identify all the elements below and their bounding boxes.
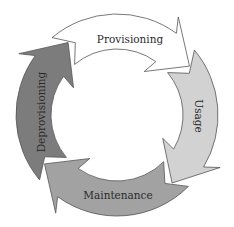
stage-label-usage: Usage bbox=[193, 99, 205, 132]
lifecycle-diagram: Provisioning Usage Maintenance Deprovisi… bbox=[0, 0, 234, 227]
stage-label-deprovisioning: Deprovisioning bbox=[35, 71, 47, 152]
stage-label-provisioning: Provisioning bbox=[97, 33, 164, 45]
arrow-usage bbox=[163, 50, 220, 183]
stage-label-maintenance: Maintenance bbox=[83, 189, 152, 201]
arrow-maintenance bbox=[45, 159, 189, 216]
